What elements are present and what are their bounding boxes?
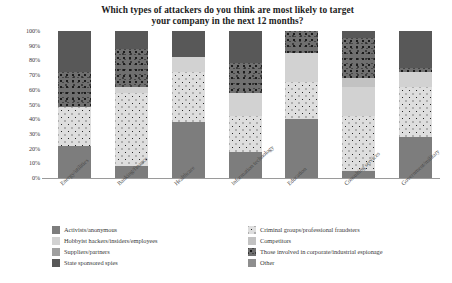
bar-segment[interactable]	[172, 72, 205, 122]
bar-stack	[172, 31, 205, 178]
legend-swatch-icon	[52, 226, 60, 234]
chart-legend: Activists/anonymousHobbyist hackers/insi…	[0, 224, 452, 283]
bar-segment[interactable]	[172, 31, 205, 57]
legend-label: Competitors	[260, 237, 291, 244]
legend-swatch-icon	[248, 237, 256, 245]
y-axis-tick-label: 100%	[6, 28, 40, 34]
bar-segment[interactable]	[115, 31, 148, 49]
bar-column[interactable]	[285, 31, 318, 178]
bar-column[interactable]	[172, 31, 205, 178]
legend-swatch-icon	[248, 226, 256, 234]
chart-title-line-2: your company in the next 12 months?	[55, 16, 400, 27]
legend-label: State sponsored spies	[64, 259, 118, 266]
legend-swatch-icon	[248, 259, 256, 267]
legend-label: Those involved in corporate/industrial e…	[260, 248, 383, 255]
bar-segment[interactable]	[172, 57, 205, 72]
bar-segment[interactable]	[229, 63, 262, 92]
y-axis-tick-label: 20%	[6, 145, 40, 151]
bar-segment[interactable]	[342, 38, 375, 78]
bar-segment[interactable]	[285, 82, 318, 119]
bar-segment[interactable]	[229, 31, 262, 63]
legend-label: Criminal groups/professional fraudsters	[260, 226, 360, 233]
bar-segment[interactable]	[342, 78, 375, 87]
y-axis-tick-label: 70%	[6, 72, 40, 78]
bar-stack	[58, 31, 91, 178]
y-axis-tick-label: 80%	[6, 57, 40, 63]
legend-column-left: Activists/anonymousHobbyist hackers/insi…	[52, 224, 242, 268]
y-axis-tick-label: 10%	[6, 160, 40, 166]
legend-swatch-icon	[248, 248, 256, 256]
legend-item[interactable]: Hobbyist hackers/insiders/employees	[52, 235, 242, 246]
bar-segment[interactable]	[342, 31, 375, 38]
bar-segment[interactable]	[285, 53, 318, 82]
y-axis-tick-label: 30%	[6, 131, 40, 137]
bar-segment[interactable]	[399, 31, 432, 68]
legend-item[interactable]: State sponsored spies	[52, 257, 242, 268]
bar-stack	[285, 31, 318, 178]
bar-segment[interactable]	[285, 31, 318, 53]
bar-segment[interactable]	[399, 72, 432, 87]
y-axis-tick-label: 0%	[6, 175, 40, 181]
legend-label: Hobbyist hackers/insiders/employees	[64, 237, 158, 244]
bar-segment[interactable]	[58, 107, 91, 145]
y-axis: 0%10%20%30%40%50%60%70%80%90%100%	[6, 31, 40, 178]
bar-segment[interactable]	[58, 72, 91, 107]
legend-item[interactable]: Criminal groups/professional fraudsters	[248, 224, 452, 235]
y-axis-tick-label: 90%	[6, 43, 40, 49]
legend-item[interactable]: Suppliers/partners	[52, 246, 242, 257]
bar-column[interactable]	[58, 31, 91, 178]
legend-item[interactable]: Those involved in corporate/industrial e…	[248, 246, 452, 257]
legend-label: Suppliers/partners	[64, 248, 110, 255]
legend-column-right: Criminal groups/professional fraudstersC…	[248, 224, 452, 268]
legend-swatch-icon	[52, 259, 60, 267]
bar-segment[interactable]	[115, 49, 148, 87]
y-axis-tick-label: 40%	[6, 116, 40, 122]
legend-item[interactable]: Other	[248, 257, 452, 268]
y-axis-tick-label: 50%	[6, 101, 40, 107]
legend-swatch-icon	[52, 248, 60, 256]
chart-title: Which types of attackers do you think ar…	[55, 5, 400, 27]
bar-segment[interactable]	[399, 68, 432, 72]
legend-swatch-icon	[52, 237, 60, 245]
legend-label: Activists/anonymous	[64, 226, 117, 233]
bar-segment[interactable]	[58, 31, 91, 72]
legend-label: Other	[260, 259, 274, 266]
y-axis-tick-label: 60%	[6, 87, 40, 93]
legend-item[interactable]: Activists/anonymous	[52, 224, 242, 235]
chart-title-line-1: Which types of attackers do you think ar…	[55, 5, 400, 16]
legend-item[interactable]: Competitors	[248, 235, 452, 246]
bar-segment[interactable]	[229, 116, 262, 151]
bar-segment[interactable]	[399, 87, 432, 137]
bar-segment[interactable]	[229, 93, 262, 117]
bar-segment[interactable]	[342, 87, 375, 116]
bar-segment[interactable]	[115, 87, 148, 93]
